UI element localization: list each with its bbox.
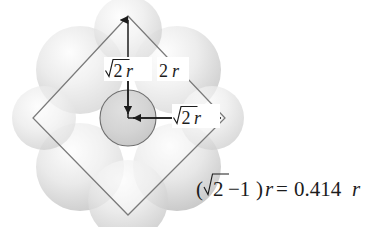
diagram-canvas: 2 r 2 r 2 r ( 2 −1 ) r = 0.414 r [0, 0, 381, 227]
edge-label-coefficient: 2 [159, 61, 168, 81]
vertical-label-radicand: 2 [114, 61, 123, 81]
equation-open-paren: ( [196, 177, 203, 201]
horizontal-dimension-label: 2 r [172, 104, 220, 128]
equation-left-variable: r [265, 177, 274, 201]
vertical-label-variable: r [126, 61, 134, 81]
edge-label-variable: r [172, 61, 180, 81]
equation-right-variable: r [352, 177, 361, 201]
equation-minus-one: −1 [228, 177, 250, 201]
result-equation: ( 2 −1 ) r = 0.414 r [196, 174, 361, 201]
equation-radicand: 2 [213, 177, 224, 201]
horizontal-label-radicand: 2 [182, 108, 191, 128]
edge-dimension-label: 2 r [157, 57, 189, 81]
vertical-dimension-label: 2 r [104, 57, 152, 81]
equation-value: 0.414 [294, 177, 342, 201]
horizontal-label-variable: r [194, 108, 202, 128]
equation-equals: = [276, 177, 288, 201]
equation-close-paren: ) [256, 177, 263, 201]
geometry-figure: 2 r 2 r 2 r ( 2 −1 ) r = 0.414 r [0, 0, 381, 227]
